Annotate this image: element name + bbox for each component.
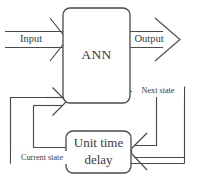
- block-diagram-svg: ANN Unit time delay Input Output Next st…: [0, 0, 198, 181]
- next-state-label: Next state: [142, 86, 175, 95]
- diagram-canvas: ANN Unit time delay Input Output Next st…: [0, 0, 198, 181]
- delay-block-label-line2: delay: [84, 152, 113, 167]
- output-label: Output: [134, 33, 163, 44]
- current-state-label: Current state: [21, 153, 63, 162]
- ann-block-label: ANN: [81, 47, 111, 62]
- delay-block-label-line1: Unit time: [74, 135, 124, 150]
- delay-input-arrowheads: [132, 133, 148, 170]
- input-label: Input: [20, 33, 42, 44]
